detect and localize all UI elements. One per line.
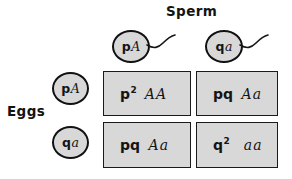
genotype-frequency: pq: [120, 137, 141, 153]
punnett-cell-q2-aa: q2aa: [196, 122, 278, 168]
genotype-frequency: p2: [120, 86, 137, 102]
frequency-exponent: 2: [224, 136, 230, 146]
sperm-gamete-pA: pA: [112, 30, 150, 63]
allele-symbol: A: [131, 39, 140, 54]
punnett-cell-content: pqAa: [213, 86, 262, 102]
egg-gamete-qa: qa: [52, 126, 89, 159]
genotype-symbol: AA: [145, 86, 168, 102]
allele-symbol: A: [71, 81, 80, 96]
punnett-cell-pq-Aa-bottom: pqAa: [103, 122, 191, 168]
punnett-cell-pq-Aa-top: pqAa: [196, 71, 278, 116]
sperm-gamete-qa-label: qa: [216, 38, 233, 54]
allele-frequency: q: [216, 39, 225, 54]
sperm-axis-label: Sperm: [166, 3, 217, 19]
allele-frequency: p: [61, 81, 70, 96]
allele-frequency: q: [62, 135, 71, 150]
eggs-axis-label: Eggs: [7, 103, 45, 119]
punnett-square-diagram: Sperm Eggs pA qa pA qa p2AA pqAa pqAa q2…: [0, 0, 292, 179]
frequency-base: q: [213, 137, 223, 153]
frequency-base: pq: [120, 137, 140, 153]
sperm-tail-icon: [239, 32, 269, 56]
punnett-cell-p2-AA: p2AA: [103, 71, 191, 116]
genotype-frequency: pq: [213, 86, 234, 102]
punnett-cell-content: pqAa: [120, 137, 169, 153]
egg-gamete-qa-label: qa: [62, 134, 79, 150]
genotype-frequency: q2: [213, 137, 230, 153]
frequency-exponent: 2: [131, 85, 137, 95]
egg-gamete-pA: pA: [52, 72, 89, 105]
frequency-base: pq: [213, 86, 233, 102]
sperm-gamete-qa: qa: [205, 30, 243, 63]
genotype-symbol: Aa: [242, 86, 263, 102]
sperm-gamete-pA-label: pA: [122, 38, 140, 54]
allele-symbol: a: [225, 39, 232, 54]
allele-symbol: a: [72, 135, 79, 150]
genotype-symbol: aa: [244, 137, 263, 153]
frequency-base: p: [120, 86, 130, 102]
punnett-cell-content: p2AA: [120, 86, 167, 102]
egg-gamete-pA-label: pA: [61, 80, 79, 96]
punnett-cell-content: q2aa: [213, 137, 263, 153]
sperm-tail-icon: [146, 32, 176, 56]
allele-frequency: p: [122, 39, 131, 54]
genotype-symbol: Aa: [149, 137, 170, 153]
